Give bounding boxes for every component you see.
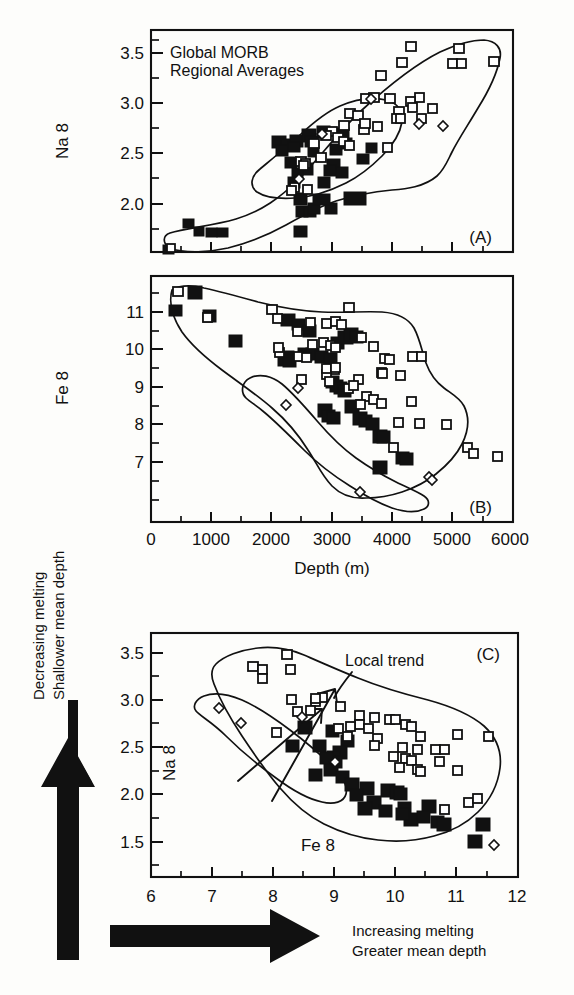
vertical-arrow-label-line2: Shallower mean depth bbox=[50, 551, 67, 700]
vertical-arrow-label-line1: Decreasing melting bbox=[30, 572, 47, 700]
panel-b-xtick-2: 2000 bbox=[252, 530, 290, 549]
panel-c-local-trend-label: Local trend bbox=[345, 652, 424, 669]
panel-c-xtick-4: 10 bbox=[386, 887, 405, 906]
panel-b-ytick-0: 7 bbox=[135, 453, 144, 472]
panel-a-y-axis-label: Na 8 bbox=[53, 123, 72, 159]
panel-a-y-ticks bbox=[151, 40, 163, 229]
panel-b-ytick-3: 10 bbox=[125, 340, 144, 359]
figure-container: 3.5 3.0 2.5 2.0 Na 8 Global MORB Regiona… bbox=[0, 0, 574, 995]
panel-a-ytick-3: 3.5 bbox=[120, 44, 144, 63]
vertical-direction-arrow-group: Decreasing melting Shallower mean depth bbox=[30, 551, 95, 960]
panel-a-ytick-1: 2.5 bbox=[120, 144, 144, 163]
panel-b-xtick-4: 4000 bbox=[373, 530, 411, 549]
panel-c: 3.5 3.0 2.5 2.0 1.5 Na 8 6 7 8 9 10 11 1… bbox=[120, 633, 526, 906]
panel-b-x-axis-label: Depth (m) bbox=[294, 559, 370, 578]
panel-b-xtick-6: 6000 bbox=[491, 530, 529, 549]
horizontal-arrow-label-line2: Greater mean depth bbox=[352, 942, 486, 959]
panel-c-local-trend-leader bbox=[334, 672, 352, 698]
panel-b-regional-field bbox=[243, 376, 429, 512]
panel-c-xtick-3: 9 bbox=[329, 887, 338, 906]
panel-b-ytick-4: 11 bbox=[126, 303, 144, 322]
panel-a-ytick-2: 3.0 bbox=[120, 94, 144, 113]
panel-c-ytick-4: 3.5 bbox=[120, 644, 144, 663]
panel-c-xtick-2: 8 bbox=[268, 887, 277, 906]
panel-c-xtick-6: 12 bbox=[508, 887, 527, 906]
horizontal-direction-arrow-group: Increasing melting Greater mean depth bbox=[110, 909, 486, 963]
panel-b-xtick-0: 0 bbox=[146, 530, 155, 549]
panel-a-tag: (A) bbox=[469, 228, 492, 247]
panel-c-ytick-0: 1.5 bbox=[120, 833, 144, 852]
panel-a-ytick-0: 2.0 bbox=[120, 195, 144, 214]
horizontal-arrow-shape bbox=[110, 909, 320, 963]
panel-c-xtick-5: 11 bbox=[447, 887, 465, 906]
panel-b-points bbox=[169, 286, 502, 497]
panel-b-y-ticks bbox=[151, 293, 163, 500]
panel-b-ytick-1: 8 bbox=[135, 415, 144, 434]
panel-a-x-ticks bbox=[181, 242, 483, 252]
panel-a-legend-line2: Regional Averages bbox=[170, 62, 304, 79]
panel-c-y-axis-label: Na 8 bbox=[160, 745, 179, 781]
panel-b: 11 10 9 8 7 Fe 8 0 1000 2000 3000 4000 5… bbox=[53, 276, 529, 578]
panel-b-xtick-1: 1000 bbox=[192, 530, 230, 549]
vertical-arrow-shape bbox=[41, 738, 95, 960]
panel-c-xtick-1: 7 bbox=[207, 887, 216, 906]
panel-c-tag: (C) bbox=[476, 645, 500, 664]
panel-a-legend-line1: Global MORB bbox=[170, 44, 269, 61]
panel-b-xtick-5: 5000 bbox=[433, 530, 471, 549]
panel-c-x-ticks bbox=[181, 867, 487, 877]
panel-c-xtick-0: 6 bbox=[146, 887, 155, 906]
panel-c-ytick-2: 2.5 bbox=[120, 738, 144, 757]
panel-b-xtick-3: 3000 bbox=[313, 530, 351, 549]
panel-c-x-axis-label: Fe 8 bbox=[301, 836, 335, 855]
panel-c-ytick-1: 2.0 bbox=[120, 785, 144, 804]
panel-b-ytick-2: 9 bbox=[135, 378, 144, 397]
panel-b-x-ticks bbox=[181, 512, 483, 522]
horizontal-arrow-label-line1: Increasing melting bbox=[352, 922, 474, 939]
figure-svg: 3.5 3.0 2.5 2.0 Na 8 Global MORB Regiona… bbox=[0, 0, 574, 995]
panel-b-y-axis-label: Fe 8 bbox=[53, 371, 72, 405]
panel-b-tag: (B) bbox=[469, 498, 492, 517]
panel-c-points bbox=[214, 650, 499, 850]
panel-c-ytick-3: 3.0 bbox=[120, 691, 144, 710]
panel-a: 3.5 3.0 2.5 2.0 Na 8 Global MORB Regiona… bbox=[53, 30, 513, 254]
panel-c-global-morb-field bbox=[212, 647, 501, 840]
